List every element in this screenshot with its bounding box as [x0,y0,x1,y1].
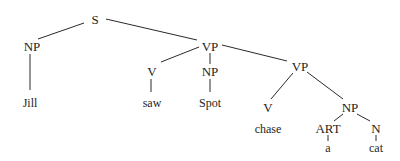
leaf-jill: Jill [23,97,38,109]
edge-vp-v [161,47,199,62]
node-vp-complement: VP [292,60,309,73]
leaf-a: a [325,142,330,154]
node-np-cat: NP [342,101,359,114]
edge-vp2-np [307,72,343,99]
node-art: ART [315,122,340,135]
edge-s-vp [106,19,197,40]
node-np-object: NP [202,65,219,78]
edge-s-np [38,23,84,39]
node-n: N [371,122,380,135]
node-v-saw: V [147,65,156,78]
leaf-spot: Spot [199,97,221,109]
edge-vp-vp [222,45,287,61]
leaf-chase: chase [255,123,282,135]
edge-np-n [357,114,370,121]
edge-vp2-v [271,73,293,99]
node-v-chase: V [263,101,272,114]
parse-tree-edges [0,0,400,161]
node-s: S [91,13,98,26]
node-np-subject: NP [24,40,41,53]
node-vp-main: VP [202,40,219,53]
leaf-cat: cat [369,142,383,154]
leaf-saw: saw [143,97,162,109]
